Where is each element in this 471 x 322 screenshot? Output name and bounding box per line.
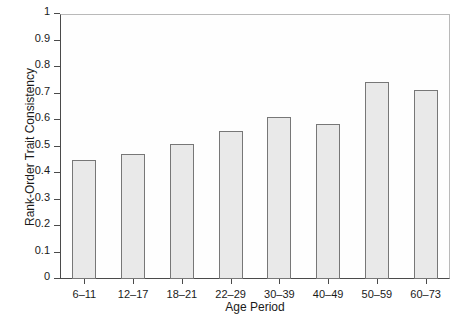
x-tick-mark — [133, 279, 134, 284]
x-tick-mark — [279, 279, 280, 284]
y-tick-label: 0.5 — [35, 139, 50, 150]
y-tick-mark — [54, 225, 60, 226]
plot-area — [60, 14, 450, 279]
y-tick-label: 0.2 — [35, 218, 50, 229]
y-tick-label: 0.3 — [35, 192, 50, 203]
y-tick-mark — [54, 146, 60, 147]
y-tick-label: 0.8 — [35, 59, 50, 70]
y-tick-mark — [54, 199, 60, 200]
y-tick-label: 0 — [44, 271, 50, 282]
y-tick-mark — [54, 13, 60, 14]
y-tick-mark — [54, 172, 60, 173]
y-tick-label: 0.4 — [35, 165, 50, 176]
y-tick-mark — [54, 93, 60, 94]
bar — [72, 160, 96, 279]
x-tick-mark — [84, 279, 85, 284]
y-tick-mark — [54, 252, 60, 253]
bar — [121, 154, 145, 279]
y-tick-mark — [54, 119, 60, 120]
y-tick-label: 0.6 — [35, 112, 50, 123]
bar — [267, 117, 291, 279]
bar — [414, 90, 438, 279]
y-tick-mark — [54, 40, 60, 41]
x-tick-mark — [231, 279, 232, 284]
bar — [170, 144, 194, 279]
x-tick-mark — [328, 279, 329, 284]
y-tick-label: 1 — [44, 6, 50, 17]
bar-chart: Rank-Order Trait Consistency Age Period … — [0, 0, 471, 322]
x-axis-label: Age Period — [60, 300, 450, 314]
y-tick-label: 0.7 — [35, 86, 50, 97]
x-tick-mark — [377, 279, 378, 284]
bar — [219, 131, 243, 279]
y-tick-label: 0.1 — [35, 245, 50, 256]
x-tick-label: 60–73 — [396, 288, 456, 300]
x-tick-mark — [182, 279, 183, 284]
bar — [365, 82, 389, 279]
y-tick-mark — [54, 66, 60, 67]
y-tick-label: 0.9 — [35, 33, 50, 44]
y-tick-mark — [54, 278, 60, 279]
x-tick-mark — [426, 279, 427, 284]
bar — [316, 124, 340, 279]
